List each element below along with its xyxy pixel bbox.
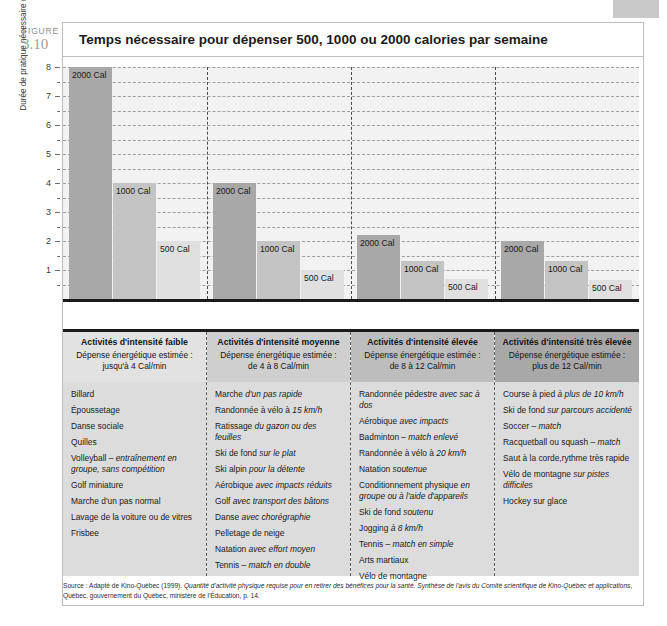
activity-item: Ski de fond sur le plat bbox=[215, 448, 343, 459]
bar-2000-cal: 2000 Cal bbox=[501, 241, 544, 299]
activity-item: Golf avec transport des bâtons bbox=[215, 496, 343, 507]
bar-value-label: 500 Cal bbox=[304, 273, 334, 283]
y-tick-label: 5 bbox=[25, 149, 51, 159]
y-tick-mark bbox=[55, 125, 60, 126]
column-subheading-1: Dépense énergétique estimée : bbox=[501, 350, 633, 361]
bar-value-label: 2000 Cal bbox=[504, 244, 538, 254]
activity-item: Époussetage bbox=[71, 405, 199, 416]
activity-item: Aérobique avec impacts bbox=[359, 416, 487, 427]
y-tick-mark bbox=[55, 270, 60, 271]
column-subheading-1: Dépense énergétique estimée : bbox=[357, 350, 488, 361]
activity-item: Vélo de montagne bbox=[359, 571, 487, 582]
y-tick-label: 1 bbox=[25, 265, 51, 275]
activity-list: Marche d'un pas rapideRandonnée à vélo à… bbox=[207, 382, 350, 576]
activity-item: Marche d'un pas rapide bbox=[215, 389, 343, 400]
column-subheading-1: Dépense énergétique estimée : bbox=[213, 350, 344, 361]
column-subheading-2: de 4 à 8 Cal/min bbox=[213, 361, 344, 372]
bar-chart: Durée de pratique nécessaire (en heures)… bbox=[25, 57, 645, 319]
bar-value-label: 1000 Cal bbox=[260, 244, 294, 254]
activity-column: Activités d'intensité faibleDépense éner… bbox=[63, 332, 207, 576]
activity-column: Activités d'intensité très élevéeDépense… bbox=[495, 332, 639, 576]
y-tick-mark bbox=[55, 96, 60, 97]
bar-value-label: 500 Cal bbox=[160, 244, 190, 254]
y-tick-label: 2 bbox=[25, 236, 51, 246]
activity-item: Marche d'un pas normal bbox=[71, 496, 199, 507]
activity-table: Activités d'intensité faibleDépense éner… bbox=[63, 329, 639, 576]
figure-title: Temps nécessaire pour dépenser 500, 1000… bbox=[79, 32, 548, 47]
activity-item: Ski alpin pour la détente bbox=[215, 464, 343, 475]
y-minor-tick-mark bbox=[57, 140, 60, 141]
y-minor-tick-mark bbox=[57, 82, 60, 83]
figure-frame: Temps nécessaire pour dépenser 500, 1000… bbox=[62, 22, 644, 606]
column-header: Activités d'intensité très élevéeDépense… bbox=[495, 332, 639, 382]
activity-item: Randonnée à vélo à 15 km/h bbox=[215, 405, 343, 416]
activity-item: Frisbee bbox=[71, 528, 199, 539]
y-tick-mark bbox=[55, 67, 60, 68]
bar-1000-cal: 1000 Cal bbox=[257, 241, 300, 299]
activity-column: Activités d'intensité élevéeDépense éner… bbox=[351, 332, 495, 576]
activity-item: Randonnée pédestre avec sac à dos bbox=[359, 389, 487, 410]
y-minor-tick-mark bbox=[57, 256, 60, 257]
y-minor-tick-mark bbox=[57, 227, 60, 228]
activity-item: Ski de fond sur parcours accidenté bbox=[503, 405, 632, 416]
group-separator bbox=[207, 67, 208, 299]
column-heading: Activités d'intensité moyenne bbox=[213, 337, 344, 348]
column-header: Activités d'intensité faibleDépense éner… bbox=[63, 332, 206, 382]
activity-item: Racquetball ou squash – match bbox=[503, 437, 632, 448]
activity-item: Conditionnement physique en groupe ou à … bbox=[359, 480, 487, 501]
activity-item: Course à pied à plus de 10 km/h bbox=[503, 389, 632, 400]
bar-1000-cal: 1000 Cal bbox=[545, 261, 588, 299]
column-subheading-2: jusqu'à 4 Cal/min bbox=[69, 361, 200, 372]
activity-item: Badminton – match enlevé bbox=[359, 432, 487, 443]
y-minor-tick-mark bbox=[57, 285, 60, 286]
activity-item: Danse avec chorégraphie bbox=[215, 512, 343, 523]
column-header: Activités d'intensité moyenneDépense éne… bbox=[207, 332, 350, 382]
activity-item: Pelletage de neige bbox=[215, 528, 343, 539]
y-tick-label: 7 bbox=[25, 91, 51, 101]
source-prefix: Source : Adapté de Kino-Québec (1999). bbox=[63, 582, 184, 589]
y-tick-label: 8 bbox=[25, 62, 51, 72]
bar-500-cal: 500 Cal bbox=[445, 279, 488, 299]
bar-500-cal: 500 Cal bbox=[301, 270, 344, 299]
bar-2000-cal: 2000 Cal bbox=[357, 235, 400, 299]
activity-item: Golf miniature bbox=[71, 480, 199, 491]
bar-value-label: 2000 Cal bbox=[72, 70, 106, 80]
plot-area: 2000 Cal1000 Cal500 Cal2000 Cal1000 Cal5… bbox=[63, 67, 639, 299]
activity-item: Aérobique avec impacts réduits bbox=[215, 480, 343, 491]
activity-item: Hockey sur glace bbox=[503, 496, 632, 507]
y-tick-mark bbox=[55, 154, 60, 155]
bar-value-label: 500 Cal bbox=[448, 282, 478, 292]
y-minor-tick-mark bbox=[57, 198, 60, 199]
column-heading: Activités d'intensité faible bbox=[69, 337, 200, 348]
activity-column: Activités d'intensité moyenneDépense éne… bbox=[207, 332, 351, 576]
bar-500-cal: 500 Cal bbox=[157, 241, 200, 299]
column-subheading-2: de 8 à 12 Cal/min bbox=[357, 361, 488, 372]
bar-value-label: 2000 Cal bbox=[216, 186, 250, 196]
y-tick-mark bbox=[55, 183, 60, 184]
bar-500-cal: 500 Cal bbox=[589, 280, 632, 299]
activity-item: Natation avec effort moyen bbox=[215, 544, 343, 555]
column-header: Activités d'intensité élevéeDépense éner… bbox=[351, 332, 494, 382]
column-subheading-2: plus de 12 Cal/min bbox=[501, 361, 633, 372]
source-title: Quantité d'activité physique requise pou… bbox=[184, 582, 630, 589]
activity-item: Randonnée à vélo à 20 km/h bbox=[359, 448, 487, 459]
page-corner-mark bbox=[613, 0, 659, 18]
activity-item: Ski de fond soutenu bbox=[359, 507, 487, 518]
column-heading: Activités d'intensité élevée bbox=[357, 337, 488, 348]
activity-item: Tennis – match en simple bbox=[359, 539, 487, 550]
activity-list: Randonnée pédestre avec sac à dosAérobiq… bbox=[351, 382, 494, 576]
figure-title-bar: Temps nécessaire pour dépenser 500, 1000… bbox=[63, 23, 643, 57]
column-subheading-1: Dépense énergétique estimée : bbox=[69, 350, 200, 361]
y-tick-label: 4 bbox=[25, 178, 51, 188]
bar-value-label: 1000 Cal bbox=[548, 264, 582, 274]
activity-item: Natation soutenue bbox=[359, 464, 487, 475]
activity-item: Saut à la corde,rythme très rapide bbox=[503, 453, 632, 464]
y-tick-label: 6 bbox=[25, 120, 51, 130]
bar-1000-cal: 1000 Cal bbox=[113, 183, 156, 299]
y-minor-tick-mark bbox=[57, 169, 60, 170]
activity-list: Course à pied à plus de 10 km/hSki de fo… bbox=[495, 382, 639, 576]
activity-item: Quilles bbox=[71, 437, 199, 448]
activity-item: Tennis – match en double bbox=[215, 560, 343, 571]
activity-list: BillardÉpoussetageDanse socialeQuillesVo… bbox=[63, 382, 206, 576]
activity-item: Ratissage du gazon ou des feuilles bbox=[215, 421, 343, 442]
